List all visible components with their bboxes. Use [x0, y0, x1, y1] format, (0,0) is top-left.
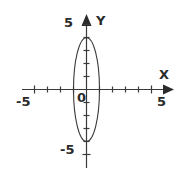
x-axis-label: X: [159, 68, 169, 81]
y-axis-tick-label-negative-5: -5: [60, 143, 74, 156]
origin-label: 0: [77, 91, 86, 104]
y-axis-tick-label-positive-5: 5: [64, 16, 73, 29]
x-axis-tick-label-negative-5: -5: [16, 95, 30, 108]
y-axis-label: Y: [96, 14, 105, 27]
coordinate-plane-figure: Y X 5 -5 -5 5 0: [0, 0, 180, 176]
x-axis-tick-label-positive-5: 5: [157, 95, 166, 108]
x-axis-arrowhead-icon: [163, 85, 174, 95]
plot-canvas: [0, 0, 180, 176]
